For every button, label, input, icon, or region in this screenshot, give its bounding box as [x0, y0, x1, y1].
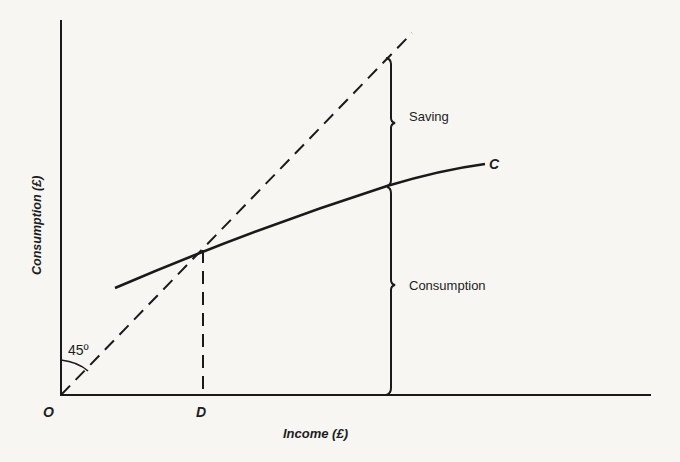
consumption-function-diagram: Consumption (£) Income (£) O D 45º C Sav…: [0, 0, 680, 462]
saving-brace: [386, 58, 395, 186]
consumption-label: Consumption: [409, 278, 486, 293]
curve-c-label: C: [489, 156, 500, 172]
consumption-curve: [115, 164, 485, 288]
x-axis-label: Income (£): [283, 426, 348, 441]
d-label: D: [196, 404, 206, 420]
saving-label: Saving: [409, 109, 449, 124]
y-axis-label: Consumption (£): [30, 176, 44, 275]
forty-five-degree-line: [61, 33, 412, 395]
angle-label: 45º: [68, 342, 89, 358]
consumption-brace: [386, 187, 395, 395]
angle-arc: [61, 360, 88, 371]
origin-label: O: [43, 404, 54, 420]
